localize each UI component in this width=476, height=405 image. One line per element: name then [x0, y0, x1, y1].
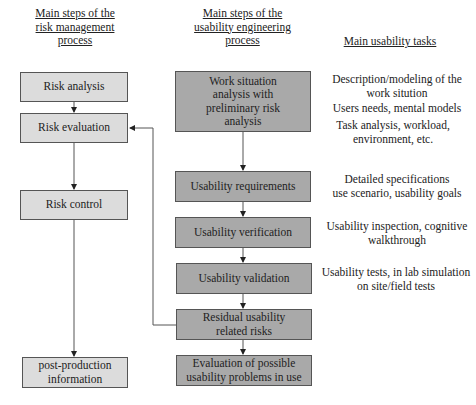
step-label: Usability requirements — [190, 180, 295, 194]
header-line: process — [10, 34, 140, 48]
step-label: preliminary risk — [206, 102, 280, 116]
step-risk-analysis: Risk analysis — [20, 72, 128, 102]
task-line: environment, etc. — [318, 133, 468, 147]
step-label: analysis — [206, 115, 280, 129]
header-line: usability engineering — [170, 21, 315, 35]
step-label: Work situation — [206, 75, 280, 89]
step-work-situation-analysis: Work situation analysis with preliminary… — [175, 71, 311, 132]
task-line: Usability inspection, cognitive — [318, 220, 476, 234]
task-line: Usability tests, in lab simulation — [316, 266, 476, 280]
header-line: Main steps of the — [170, 7, 315, 21]
header-risk-management: Main steps of the risk management proces… — [10, 7, 140, 48]
task-line: Users needs, mental models — [318, 102, 476, 116]
step-label: post-production — [39, 359, 112, 373]
step-label: analysis with — [206, 88, 280, 102]
task-line: walkthrough — [318, 234, 476, 248]
task-line: work sitution — [318, 87, 476, 101]
header-line: process — [170, 34, 315, 48]
step-usability-requirements: Usability requirements — [175, 171, 311, 202]
task-task-analysis: Task analysis, workload, environment, et… — [318, 119, 468, 146]
task-description-modeling: Description/modeling of the work situtio… — [318, 73, 476, 100]
step-usability-validation: Usability validation — [176, 263, 312, 294]
step-label: Usability validation — [198, 272, 289, 286]
step-label: related risks — [203, 325, 286, 339]
step-usability-verification: Usability verification — [175, 217, 311, 248]
step-label: usability problems in use — [186, 371, 301, 385]
step-risk-control: Risk control — [20, 190, 128, 220]
step-label: Risk evaluation — [38, 121, 110, 135]
step-label: information — [39, 373, 112, 387]
header-line: Main steps of the — [10, 7, 140, 21]
task-line: Task analysis, workload, — [318, 119, 468, 133]
step-label: Usability verification — [194, 226, 292, 240]
step-post-production-information: post-production information — [22, 357, 128, 388]
task-usability-inspection: Usability inspection, cognitive walkthro… — [318, 220, 476, 247]
step-residual-usability-risks: Residual usability related risks — [176, 309, 312, 340]
header-usability-engineering: Main steps of the usability engineering … — [170, 7, 315, 48]
step-label: Residual usability — [203, 311, 286, 325]
header-usability-tasks: Main usability tasks — [330, 35, 450, 49]
task-users-needs: Users needs, mental models — [318, 102, 476, 116]
step-evaluation-usability-problems: Evaluation of possible usability problem… — [176, 355, 312, 386]
task-detailed-specifications: Detailed specifications use scenario, us… — [318, 173, 476, 200]
step-label: Evaluation of possible — [186, 357, 301, 371]
task-line: use scenario, usability goals — [318, 187, 476, 201]
task-usability-tests: Usability tests, in lab simulation on si… — [316, 266, 476, 293]
task-line: Detailed specifications — [318, 173, 476, 187]
step-label: Risk analysis — [43, 80, 104, 94]
header-line: risk management — [10, 21, 140, 35]
task-line: on site/field tests — [316, 280, 476, 294]
feedback-arrow-residual-to-risk-evaluation — [130, 128, 176, 325]
step-label: Risk control — [46, 198, 103, 212]
task-line: Description/modeling of the — [318, 73, 476, 87]
step-risk-evaluation: Risk evaluation — [20, 113, 128, 143]
